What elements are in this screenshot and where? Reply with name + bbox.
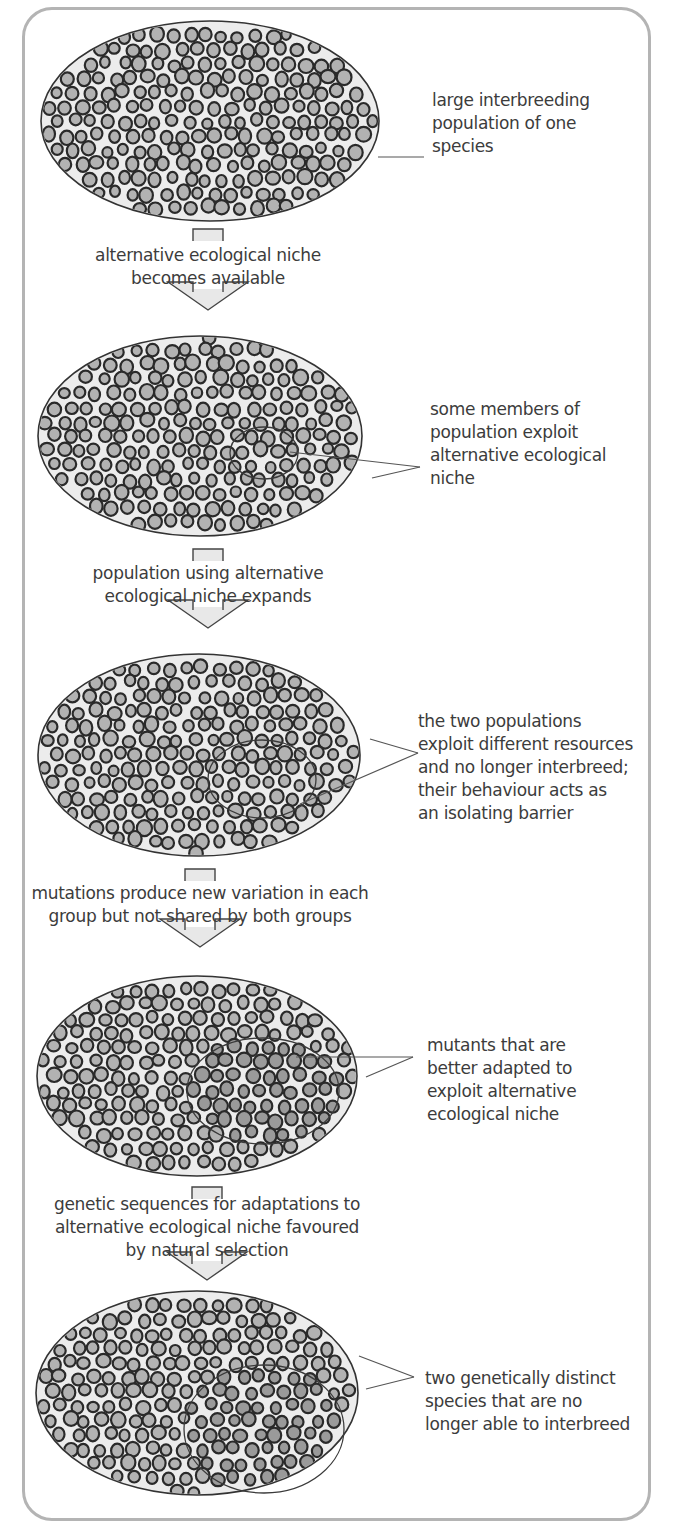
organism-cell — [205, 1026, 219, 1040]
organism-cell — [104, 1340, 116, 1354]
panel-4 — [37, 976, 413, 1176]
organism-cell — [279, 718, 292, 730]
organism-cell — [87, 1426, 100, 1441]
organism-cell — [189, 999, 200, 1009]
organism-cell — [118, 1311, 131, 1324]
organism-cell — [76, 100, 90, 114]
organism-cell — [66, 1043, 77, 1053]
organism-cell — [264, 777, 274, 788]
organism-cell — [291, 128, 302, 140]
organism-cell — [287, 474, 298, 487]
organism-cell — [114, 431, 126, 443]
organism-cell — [197, 1040, 208, 1053]
organism-cell — [307, 1326, 322, 1340]
organism-cell — [100, 56, 110, 67]
organism-cell — [260, 102, 272, 115]
organism-cell — [104, 678, 115, 690]
organism-cell — [46, 1384, 60, 1398]
organism-cell — [98, 1041, 110, 1054]
organism-cell — [281, 402, 293, 414]
organism-cell — [116, 1014, 128, 1026]
organism-cell — [215, 519, 225, 531]
organism-cell — [120, 1430, 130, 1442]
organism-cell — [272, 155, 286, 170]
organism-cell — [119, 117, 132, 131]
organism-cell — [222, 501, 235, 516]
organism-cell — [102, 147, 112, 157]
organism-cell — [119, 171, 130, 184]
organism-cell — [127, 45, 140, 57]
organism-cell — [220, 1000, 232, 1012]
organism-cell — [146, 1298, 159, 1312]
organism-cell — [307, 127, 319, 140]
organism-cell — [121, 500, 134, 513]
organism-cell — [169, 1458, 181, 1469]
organism-cell — [130, 458, 140, 470]
organism-cell — [111, 1412, 126, 1428]
organism-cell — [297, 459, 309, 473]
organism-cell — [126, 1383, 141, 1397]
organism-cell — [175, 101, 185, 112]
organism-cell — [179, 835, 193, 848]
organism-cell — [223, 675, 235, 687]
organism-cell — [146, 1043, 158, 1055]
organism-cell — [100, 373, 110, 384]
organism-cell — [233, 1430, 247, 1443]
organism-cell — [94, 1445, 105, 1457]
organism-cell — [103, 1314, 117, 1330]
organism-cell — [197, 750, 210, 762]
organism-cell — [271, 1456, 283, 1468]
organism-cell — [165, 1098, 176, 1111]
organism-cell — [270, 789, 283, 803]
organism-cell — [139, 1143, 153, 1156]
organism-cell — [255, 43, 268, 57]
organism-cell — [190, 733, 203, 745]
organism-cell — [42, 735, 54, 746]
organism-cell — [239, 1342, 250, 1354]
organism-cell — [182, 515, 194, 527]
organism-cell — [224, 821, 235, 833]
organism-cell — [239, 792, 251, 805]
organism-cell — [255, 1111, 269, 1123]
organism-cell — [61, 72, 74, 85]
organism-cell — [311, 746, 324, 759]
organism-cell — [231, 429, 244, 441]
organism-cell — [261, 1384, 274, 1397]
organism-cell — [178, 400, 191, 413]
organism-cell — [204, 419, 216, 430]
organism-cell — [138, 501, 150, 513]
organism-cell — [321, 763, 333, 775]
organism-cell — [100, 404, 111, 415]
organism-cell — [245, 1326, 257, 1339]
organism-cell — [246, 717, 258, 731]
organism-cell — [266, 1313, 279, 1327]
organism-cell — [271, 388, 282, 400]
organism-cell — [104, 1144, 116, 1157]
organism-cell — [162, 776, 174, 788]
organism-cell — [213, 775, 223, 787]
organism-cell — [146, 344, 158, 356]
organism-cell — [156, 707, 168, 720]
organism-cell — [269, 1372, 281, 1384]
organism-cell — [179, 693, 190, 704]
organism-cell — [172, 820, 184, 832]
organism-cell — [348, 145, 362, 160]
organism-cell — [294, 717, 307, 729]
organism-cell — [55, 1056, 66, 1067]
organism-cell — [141, 99, 153, 111]
organism-cell — [80, 1328, 91, 1338]
organism-cell — [47, 1096, 60, 1111]
organism-cell — [165, 514, 176, 526]
organism-cell — [212, 1013, 224, 1026]
organism-cell — [152, 1342, 166, 1356]
organism-cell — [321, 1343, 332, 1357]
organism-cell — [79, 371, 92, 383]
organism-cell — [169, 1056, 181, 1068]
organism-cell — [231, 373, 244, 387]
organism-cell — [246, 1069, 260, 1083]
organism-cell — [321, 70, 336, 83]
organism-cell — [214, 835, 224, 847]
organism-cell — [115, 805, 127, 819]
step-line: population using alternative — [0, 562, 458, 585]
organism-cell — [285, 1455, 297, 1468]
